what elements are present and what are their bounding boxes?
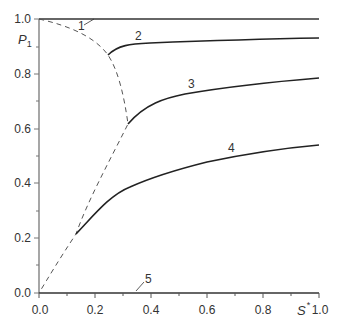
x-tick-label: 1.0 — [312, 303, 329, 317]
curve-3 — [128, 78, 319, 124]
y-tick-label: 1.0 — [14, 12, 31, 26]
x-tick-label: 0.6 — [199, 303, 216, 317]
boundary-dashed-curve — [39, 19, 128, 293]
y-axis-title: P1 — [18, 32, 32, 49]
x-tick-label: 0.4 — [143, 303, 160, 317]
y-tick-label: 0.4 — [14, 176, 31, 190]
curve-4 — [76, 145, 319, 234]
x-tick-label: 0.2 — [87, 303, 104, 317]
y-tick-label: 0.6 — [14, 122, 31, 136]
curve-3-label: 3 — [188, 77, 195, 91]
x-tick-label: 0.0 — [32, 303, 49, 317]
x-axis-title: S* — [297, 300, 311, 318]
curve-1-label: 1 — [78, 19, 85, 33]
x-tick-label: 0.8 — [255, 303, 272, 317]
chart-svg: 0.0 0.2 0.4 0.6 0.8 1.0 0.0 0.2 0.4 0.6 … — [0, 0, 341, 327]
curve-4-label: 4 — [228, 141, 235, 155]
y-ticks — [34, 19, 39, 293]
y-tick-label: 0.2 — [14, 231, 31, 245]
curve-5-leader — [136, 282, 144, 291]
chart: 0.0 0.2 0.4 0.6 0.8 1.0 0.0 0.2 0.4 0.6 … — [0, 0, 341, 327]
curve-1-leader — [84, 19, 94, 25]
y-tick-label: 0.0 — [14, 286, 31, 300]
y-tick-label: 0.8 — [14, 67, 31, 81]
curve-2-label: 2 — [135, 29, 142, 43]
curve-5-label: 5 — [145, 272, 152, 286]
